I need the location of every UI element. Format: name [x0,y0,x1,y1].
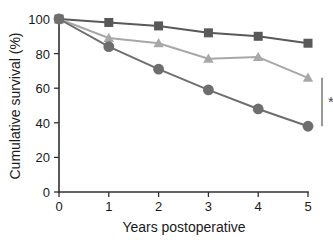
series-circles-marker [103,41,114,52]
series-squares-marker [254,32,263,41]
y-tick-label: 40 [36,116,50,131]
series-circles-marker [203,85,214,96]
x-tick-label: 3 [205,199,212,214]
series-circles-marker [153,64,164,75]
y-tick-label: 60 [36,81,50,96]
chart-figure: 100 80 60 40 20 0 0 1 2 3 4 5 Years post… [0,0,333,242]
x-tick-label: 1 [105,199,112,214]
x-tick-label: 2 [155,199,162,214]
series-circles-marker [303,121,314,132]
series-squares-marker [204,28,213,37]
series-squares-marker [304,39,313,48]
series-squares-marker [104,18,113,27]
x-tick-label: 4 [255,199,262,214]
series-circles-marker [253,104,264,115]
x-axis-title: Years postoperative [122,219,245,235]
x-tick-label: 0 [55,199,62,214]
significance-asterisk: * [328,93,333,110]
y-tick-label: 20 [36,150,50,165]
series-circles-marker [54,14,65,25]
y-tick-label: 100 [28,12,50,27]
y-tick-label: 80 [36,47,50,62]
x-tick-label: 5 [304,199,311,214]
survival-curve-chart: 100 80 60 40 20 0 0 1 2 3 4 5 Years post… [0,0,333,242]
series-squares-marker [154,21,163,30]
y-axis-title: Cumulative survival (%) [7,32,23,179]
y-tick-label: 0 [43,185,50,200]
